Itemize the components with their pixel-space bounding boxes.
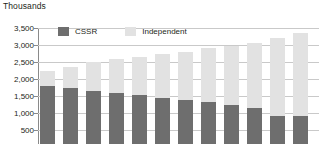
bar-segment-independent[interactable] [293, 33, 308, 116]
y-axis-tick [34, 28, 38, 29]
bar-column[interactable] [63, 67, 78, 144]
bar-segment-independent[interactable] [86, 62, 101, 91]
bar-segment-independent[interactable] [132, 57, 147, 95]
bar-segment-independent[interactable] [201, 48, 216, 102]
stacked-bar-chart: Thousands 3,5003,0002,5002,0001,5001,000… [0, 0, 319, 144]
bar-segment-independent[interactable] [178, 52, 193, 100]
y-axis-tick-label: 1,000 [0, 109, 34, 118]
y-axis-tick-label: 3,500 [0, 24, 34, 33]
y-axis-tick-label: 2,000 [0, 75, 34, 84]
bar-segment-cssr[interactable] [178, 100, 193, 144]
y-axis-tick [34, 96, 38, 97]
bar-column[interactable] [86, 62, 101, 144]
bar-column[interactable] [109, 59, 124, 144]
bar-column[interactable] [40, 71, 55, 145]
y-axis-tick [34, 113, 38, 114]
bar-segment-cssr[interactable] [109, 93, 124, 144]
independent-swatch-icon [125, 27, 136, 36]
bar-segment-independent[interactable] [40, 71, 55, 86]
y-axis-tick [34, 45, 38, 46]
bar-segment-cssr[interactable] [40, 86, 55, 144]
legend-item-independent[interactable]: Independent [125, 27, 187, 36]
y-axis-tick-label: 3,000 [0, 41, 34, 50]
y-axis-tick-label: 500 [0, 126, 34, 135]
bar-column[interactable] [132, 57, 147, 144]
bar-column[interactable] [155, 54, 170, 144]
bar-segment-cssr[interactable] [63, 88, 78, 144]
bar-column[interactable] [224, 46, 239, 144]
legend-label-independent: Independent [142, 27, 187, 36]
bar-segment-cssr[interactable] [132, 95, 147, 144]
bar-segment-independent[interactable] [109, 59, 124, 93]
chart-legend: CSSR Independent [58, 27, 187, 36]
bar-column[interactable] [247, 43, 262, 144]
y-axis-tick [34, 62, 38, 63]
bar-segment-cssr[interactable] [224, 105, 239, 144]
bar-segment-cssr[interactable] [201, 102, 216, 144]
legend-label-cssr: CSSR [75, 27, 97, 36]
bar-segment-cssr[interactable] [247, 108, 262, 144]
bar-segment-independent[interactable] [224, 46, 239, 105]
bar-segment-independent[interactable] [155, 54, 170, 98]
bar-segment-independent[interactable] [63, 67, 78, 88]
y-axis-tick-label: 2,500 [0, 58, 34, 67]
bar-segment-cssr[interactable] [293, 116, 308, 144]
bar-column[interactable] [293, 33, 308, 144]
y-axis-tick [34, 79, 38, 80]
plot-area [38, 28, 319, 144]
y-axis-tick [34, 130, 38, 131]
y-axis-unit-label: Thousands [3, 1, 46, 11]
bar-segment-cssr[interactable] [86, 91, 101, 144]
bar-column[interactable] [270, 38, 285, 144]
bar-segment-independent[interactable] [270, 38, 285, 116]
bar-segment-cssr[interactable] [270, 116, 285, 144]
y-axis-tick-label: 1,500 [0, 92, 34, 101]
bar-column[interactable] [201, 48, 216, 144]
bar-column[interactable] [178, 52, 193, 144]
bar-segment-independent[interactable] [247, 43, 262, 108]
bar-segment-cssr[interactable] [155, 98, 170, 144]
cssr-swatch-icon [58, 27, 69, 36]
legend-item-cssr[interactable]: CSSR [58, 27, 97, 36]
